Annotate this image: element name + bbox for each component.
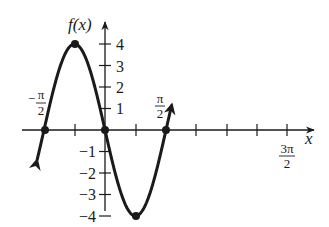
svg-text:2: 2 <box>284 156 291 171</box>
svg-text:1: 1 <box>116 100 124 117</box>
svg-text:−4: −4 <box>79 208 96 225</box>
x-axis-label: x <box>304 129 313 148</box>
svg-text:3: 3 <box>116 58 124 75</box>
svg-text:3π: 3π <box>280 141 294 156</box>
point-max <box>71 40 79 48</box>
svg-text:−3: −3 <box>79 186 96 203</box>
y-axis-label: f(x) <box>68 15 92 34</box>
tick-label-pi-half: π 2 <box>155 91 165 121</box>
point-neg-pi-half <box>41 126 49 134</box>
svg-text:2: 2 <box>38 103 45 118</box>
svg-text:2: 2 <box>116 79 124 96</box>
svg-text:2: 2 <box>157 106 164 121</box>
point-min <box>132 212 140 220</box>
point-pi-half <box>162 126 170 134</box>
svg-text:−: − <box>28 91 35 106</box>
svg-text:−1: −1 <box>79 143 96 160</box>
point-origin <box>101 126 109 134</box>
chart-canvas: f(x) x 4 3 2 1 −1 −2 −3 −4 − π 2 π 2 3π … <box>0 0 329 227</box>
tick-label-three-pi-half: 3π 2 <box>279 141 295 171</box>
svg-text:4: 4 <box>116 36 124 53</box>
svg-text:−2: −2 <box>79 165 96 182</box>
tick-label-neg-pi-half: − π 2 <box>28 87 46 118</box>
svg-text:π: π <box>38 87 45 102</box>
svg-text:π: π <box>157 91 164 106</box>
